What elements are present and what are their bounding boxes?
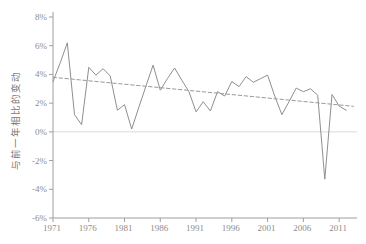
y-tick-label: -6% — [32, 213, 47, 223]
x-tick-label: 1981 — [115, 223, 133, 233]
x-tick-label: 1976 — [79, 223, 98, 233]
y-tick-label: 8% — [35, 12, 48, 22]
x-tick-label: 1991 — [186, 223, 204, 233]
x-tick-label: 2006 — [293, 223, 312, 233]
x-tick-label: 2011 — [329, 223, 347, 233]
x-tick-label: 2001 — [258, 223, 276, 233]
line-chart-svg: 8%6%4%2%0%-2%-4%-6%197119761981198619911… — [0, 0, 366, 244]
year-over-year-change — [53, 43, 346, 179]
y-tick-label: 6% — [35, 41, 48, 51]
chart-figure: 与前一年相比的变动 8%6%4%2%0%-2%-4%-6%19711976198… — [0, 0, 366, 244]
y-tick-label: -4% — [32, 184, 47, 194]
y-tick-label: -2% — [32, 156, 47, 166]
y-tick-label: 2% — [35, 98, 48, 108]
x-tick-label: 1971 — [43, 223, 61, 233]
x-tick-label: 1986 — [150, 223, 169, 233]
y-tick-label: 4% — [35, 69, 48, 79]
x-tick-label: 1996 — [222, 223, 241, 233]
y-tick-label: 0% — [35, 127, 48, 137]
